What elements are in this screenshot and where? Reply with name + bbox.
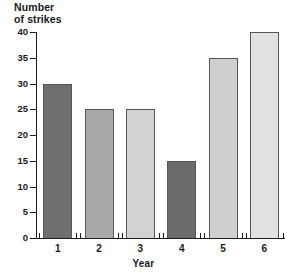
x-tick-mark — [118, 233, 119, 239]
x-axis-line — [36, 238, 285, 239]
x-tick-mark — [159, 233, 160, 239]
y-tick-mark — [30, 135, 36, 136]
x-tick-label: 1 — [45, 243, 71, 254]
y-tick-mark — [30, 212, 36, 213]
bar — [209, 58, 238, 238]
x-tick-mark — [246, 233, 247, 239]
x-tick-label: 3 — [127, 243, 153, 254]
x-tick-mark — [80, 233, 81, 239]
x-tick-mark — [76, 233, 77, 239]
bar — [85, 109, 114, 238]
x-tick-mark — [200, 233, 201, 239]
y-tick-label: 30 — [4, 79, 28, 89]
bar-chart: Number of strikes 0510152025303540 12345… — [0, 0, 287, 274]
y-axis-title-line-2: of strikes — [14, 14, 62, 26]
y-tick-mark — [30, 109, 36, 110]
bar — [126, 109, 155, 238]
x-tick-label: 2 — [86, 243, 112, 254]
y-tick-mark — [30, 84, 36, 85]
x-tick-mark — [39, 233, 40, 239]
x-tick-label: 6 — [251, 243, 277, 254]
y-axis-title: Number of strikes — [14, 2, 62, 25]
y-tick-label: 15 — [4, 156, 28, 166]
bar — [167, 161, 196, 238]
y-tick-label: 10 — [4, 182, 28, 192]
bar — [43, 84, 72, 239]
y-tick-label: 20 — [4, 130, 28, 140]
y-axis-title-line-1: Number — [14, 2, 62, 14]
x-tick-mark — [283, 233, 284, 239]
x-tick-label: 5 — [210, 243, 236, 254]
y-tick-label: 35 — [4, 53, 28, 63]
bar — [250, 32, 279, 238]
y-tick-label: 40 — [4, 27, 28, 37]
y-tick-mark — [30, 187, 36, 188]
y-tick-mark — [30, 58, 36, 59]
y-tick-label: 5 — [4, 207, 28, 217]
y-tick-mark — [30, 161, 36, 162]
y-tick-mark — [30, 32, 36, 33]
x-tick-mark — [122, 233, 123, 239]
x-tick-mark — [204, 233, 205, 239]
x-tick-mark — [242, 233, 243, 239]
x-tick-label: 4 — [169, 243, 195, 254]
x-tick-mark — [163, 233, 164, 239]
x-axis-title: Year — [0, 258, 287, 269]
y-tick-mark — [30, 238, 36, 239]
y-tick-label: 0 — [4, 233, 28, 243]
y-tick-label: 25 — [4, 104, 28, 114]
plot-area — [37, 32, 285, 238]
